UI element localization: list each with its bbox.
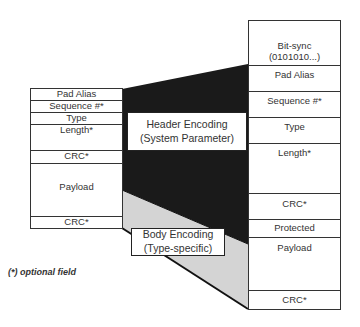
header-encoding-subtitle: (System Parameter) — [128, 132, 246, 146]
body-encoding-subtitle: (Type-specific) — [132, 242, 224, 256]
right-field-protected: Protected — [248, 219, 341, 238]
right-field-sequence: Sequence #* — [248, 91, 341, 118]
header-encoding-title: Header Encoding — [128, 118, 246, 132]
right-field-length: Length* — [248, 143, 341, 194]
body-encoding-title: Body Encoding — [132, 228, 224, 242]
right-field-crc-header: CRC* — [248, 193, 341, 220]
optional-field-footnote: (*) optional field — [8, 267, 76, 277]
right-field-pad-alias: Pad Alias — [248, 65, 341, 92]
left-field-crc-header: CRC* — [30, 150, 123, 164]
left-field-crc-body: CRC* — [30, 216, 123, 229]
left-field-payload: Payload — [30, 163, 123, 217]
header-encoding-label: Header Encoding (System Parameter) — [127, 112, 247, 151]
right-field-type: Type — [248, 117, 341, 144]
bit-sync-pattern: (0101010...) — [249, 52, 340, 63]
body-encoding-label: Body Encoding (Type-specific) — [131, 228, 225, 256]
right-field-bit-sync: Bit-sync (0101010...) — [248, 20, 341, 66]
right-field-crc-body: CRC* — [248, 290, 341, 310]
right-field-payload: Payload — [248, 237, 341, 291]
left-field-length: Length* — [30, 124, 123, 151]
